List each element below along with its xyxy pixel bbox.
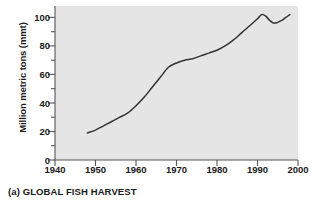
y-tick-label: 100 [24, 13, 50, 23]
x-tick-label: 2000 [278, 165, 318, 175]
y-tick-label: 20 [24, 127, 50, 137]
x-tick-label-group: 1940 1950 1960 1970 1980 1990 2000 [0, 165, 318, 179]
y-tick-label: 40 [24, 99, 50, 109]
x-tick-label: 1970 [157, 165, 197, 175]
x-tick-label: 1940 [35, 165, 75, 175]
figure-caption: (a) GLOBAL FISH HARVEST [8, 186, 137, 197]
y-tick-label: 60 [24, 70, 50, 80]
figure-global-fish-harvest: Million metric tons (mmt) 0 20 40 60 80 … [0, 0, 318, 208]
x-tick-label: 1980 [197, 165, 237, 175]
x-tick-label: 1990 [238, 165, 278, 175]
x-tick-label: 1960 [116, 165, 156, 175]
plot-area [55, 6, 298, 160]
y-tick-label: 80 [24, 41, 50, 51]
x-tick-label: 1950 [76, 165, 116, 175]
